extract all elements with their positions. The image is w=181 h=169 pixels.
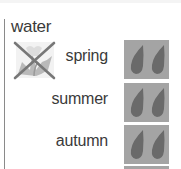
water-drops-box-summer (124, 83, 169, 122)
row-label-autumn: autumn (56, 132, 108, 150)
row-label-summer: summer (51, 90, 108, 108)
water-drops-icon (124, 40, 169, 79)
no-plant-icon (12, 40, 58, 80)
water-drops-icon (124, 83, 169, 122)
left-divider (4, 19, 5, 169)
water-drops-box-spring (124, 40, 169, 79)
row-label-spring: spring (66, 47, 108, 65)
section-title: water (11, 17, 51, 37)
water-drops-icon (124, 125, 169, 164)
top-edge (0, 0, 181, 3)
water-drops-box-next (124, 166, 169, 169)
water-drops-box-autumn (124, 125, 169, 164)
